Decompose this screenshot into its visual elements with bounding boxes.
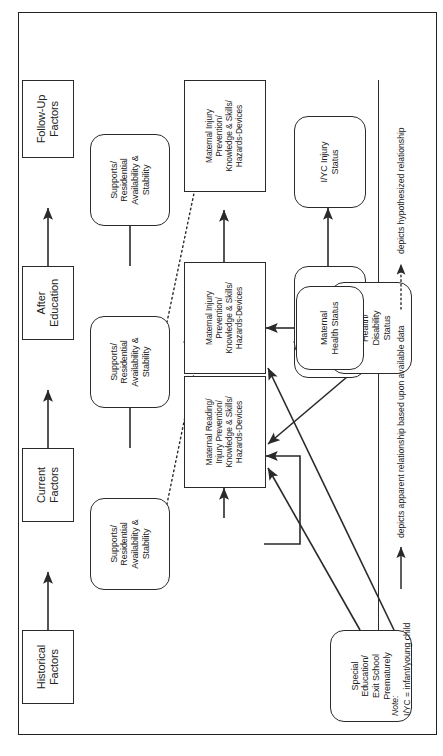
arrow-supports-elbow-to-maternal-reading	[264, 456, 300, 544]
node-supports-follow-up[interactable]: Supports/ Residential Availability & Sta…	[90, 134, 170, 226]
node-line-2: Residential	[119, 158, 130, 201]
node-maternal-reading-current[interactable]: Maternal Reading/ Injury Prevention/ Kno…	[184, 376, 266, 488]
node-maternal-injury-after-education[interactable]: Maternal Injury Prevention/ Knowledge & …	[184, 262, 266, 374]
node-line-1: Supports/	[109, 343, 120, 381]
header-line-1: Historical	[35, 644, 48, 688]
node-line-3: Availability &	[130, 155, 141, 204]
column-header-historical: Historical Factors	[22, 630, 74, 704]
diagram-stage: Historical Factors Current Factors After…	[12, 17, 431, 740]
node-line-1: Supports/	[109, 525, 120, 563]
node-line-2: Residential	[119, 340, 130, 383]
header-line-2: Factors	[48, 649, 61, 685]
legend-dotted-row: depicts hypothesized relationship	[396, 127, 406, 310]
header-line-2: Factors	[48, 101, 61, 137]
node-maternal-health-status[interactable]: Maternal Health Status	[296, 286, 364, 370]
node-line-2: Residential	[119, 522, 130, 565]
figure-page: Historical Factors Current Factors After…	[0, 0, 443, 756]
legend-note-label: Note:	[390, 695, 400, 716]
node-line-3: Exit School	[371, 654, 382, 698]
node-supports-current[interactable]: Supports/ Residential Availability & Sta…	[90, 498, 170, 590]
node-line-2: Health Status	[330, 301, 341, 354]
header-line-1: Current	[35, 467, 48, 503]
legend-note-text: I/YC = infant/young child	[402, 622, 412, 715]
header-line-1: After	[35, 291, 48, 314]
node-line-4: Stability	[141, 164, 152, 195]
node-line-4: Hazards-Devices	[235, 104, 245, 166]
header-line-1: Follow-Up	[35, 94, 48, 143]
node-line-4: Hazards-Devices	[235, 286, 245, 348]
legend-solid-row: depicts apparent relationship based upon…	[396, 325, 406, 590]
node-line-1: I/YC Injury	[319, 141, 330, 182]
node-line-1: Supports/	[109, 161, 120, 199]
arrow-special-education-to-maternal-reading	[268, 468, 360, 630]
node-line-2: Status	[330, 149, 341, 174]
column-header-follow-up: Follow-Up Factors	[22, 80, 74, 158]
legend-solid-text: depicts apparent relationship based upon…	[396, 325, 406, 538]
node-line-1: Special	[350, 661, 361, 690]
node-line-4: Hazards-Devices	[235, 400, 245, 462]
node-line-2: Education/	[360, 655, 371, 697]
node-supports-after-education[interactable]: Supports/ Residential Availability & Sta…	[90, 316, 170, 408]
node-line-3: Availability &	[130, 337, 141, 386]
node-line-4: Stability	[141, 346, 152, 377]
legend-dotted-text: depicts hypothesized relationship	[396, 127, 406, 254]
dotted-arrow-icon	[396, 258, 406, 310]
node-iyc-injury-follow-up[interactable]: I/YC Injury Status	[294, 116, 366, 208]
node-line-3: Disability	[371, 310, 382, 345]
column-header-current: Current Factors	[22, 448, 74, 522]
node-line-4: Stability	[141, 528, 152, 559]
column-header-after-education: After Education	[22, 266, 74, 340]
node-maternal-injury-follow-up[interactable]: Maternal Injury Prevention/ Knowledge & …	[184, 80, 266, 192]
solid-arrow-icon	[396, 542, 406, 590]
node-line-1: Maternal	[319, 310, 330, 344]
arrow-special-education-to-iyc-health	[268, 368, 394, 630]
node-line-3: Availability &	[130, 519, 141, 568]
header-line-2: Factors	[48, 467, 61, 503]
header-line-2: Education	[48, 278, 61, 326]
